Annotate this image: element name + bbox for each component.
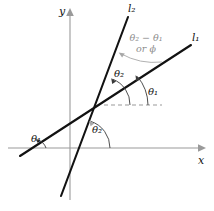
theta2-axis-label: θ₂ [92, 125, 102, 135]
line-l1-label: l₁ [192, 32, 200, 43]
angle-between-lines-figure: y x l₂ l₁ θ₂ − θ₁ or ϕ θ₂ θ₁ θ₁ θ₂ [0, 0, 214, 211]
x-axis-arrow-icon [198, 144, 206, 152]
angle-difference-label: θ₂ − θ₁ or ϕ [120, 33, 172, 53]
line-l2 [61, 17, 128, 196]
theta2-intersection-label: θ₂ [114, 69, 124, 79]
line-l1 [20, 45, 191, 156]
arc-phi-difference [119, 52, 162, 62]
y-axis-label: y [59, 6, 65, 17]
theta1-axis-label: θ₁ [31, 134, 41, 144]
axis-group [8, 8, 206, 200]
line-l2-label: l₂ [128, 3, 136, 14]
arc-theta1-intersection [136, 75, 149, 105]
angle-difference-line2: or ϕ [120, 44, 172, 54]
theta1-intersection-label: θ₁ [148, 87, 158, 97]
diagram-canvas [0, 0, 214, 211]
x-axis-label: x [198, 155, 204, 166]
y-axis-arrow-icon [66, 8, 74, 16]
angle-difference-line1: θ₂ − θ₁ [129, 32, 162, 43]
